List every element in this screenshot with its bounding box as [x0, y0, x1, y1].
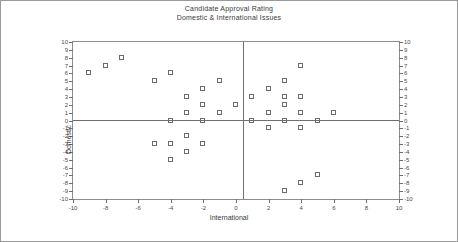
data-point: [298, 110, 303, 115]
y-tick-label-right: 6: [404, 70, 426, 76]
x-tick-label: 4: [290, 205, 312, 211]
y-tick-right: [399, 175, 403, 176]
data-point: [168, 157, 173, 162]
y-tick-label-right: -3: [404, 141, 426, 147]
chart-screenshot: Candidate Approval Rating Domestic & Int…: [0, 0, 458, 242]
y-tick-right: [399, 81, 403, 82]
chart-subtitle: Domestic & International Issues: [0, 13, 458, 22]
y-tick-label-left: 5: [46, 78, 68, 84]
data-point: [152, 141, 157, 146]
x-tick-label: 2: [258, 205, 280, 211]
y-tick-label-right: -5: [404, 157, 426, 163]
data-point: [184, 149, 189, 154]
y-tick-label-right: 0: [404, 118, 426, 124]
data-point: [249, 94, 254, 99]
data-point: [282, 118, 287, 123]
y-tick-right: [399, 113, 403, 114]
y-tick-label-right: -9: [404, 188, 426, 194]
y-tick-right: [399, 160, 403, 161]
x-tick-label: 6: [323, 205, 345, 211]
data-point: [331, 110, 336, 115]
y-tick-right: [399, 144, 403, 145]
data-point: [282, 94, 287, 99]
page-border-top: [0, 0, 458, 1]
y-tick-label-right: -8: [404, 180, 426, 186]
y-tick-label-right: 5: [404, 78, 426, 84]
y-tick-left: [69, 66, 73, 67]
y-tick-label-left: -7: [46, 172, 68, 178]
y-tick-label-right: -2: [404, 133, 426, 139]
y-tick-label-left: 9: [46, 47, 68, 53]
y-tick-left: [69, 42, 73, 43]
y-tick-label-right: 9: [404, 47, 426, 53]
page-border-left: [0, 0, 1, 242]
y-tick-left: [69, 89, 73, 90]
y-tick-label-right: 3: [404, 94, 426, 100]
y-tick-label-left: -5: [46, 157, 68, 163]
x-tick: [236, 199, 237, 203]
data-point: [282, 188, 287, 193]
data-point: [282, 78, 287, 83]
y-tick-left: [69, 113, 73, 114]
y-tick-label-right: 4: [404, 86, 426, 92]
data-point: [168, 118, 173, 123]
y-tick-label-right: 8: [404, 55, 426, 61]
y-tick-label-left: -6: [46, 165, 68, 171]
y-tick-right: [399, 191, 403, 192]
y-tick-right: [399, 121, 403, 122]
y-zero-axis-line: [243, 42, 244, 199]
x-tick: [138, 199, 139, 203]
data-point: [184, 133, 189, 138]
data-point: [168, 70, 173, 75]
data-point: [233, 102, 238, 107]
y-tick-left: [69, 191, 73, 192]
y-tick-right: [399, 128, 403, 129]
data-point: [217, 110, 222, 115]
y-tick-label-left: -9: [46, 188, 68, 194]
x-tick-label: -4: [160, 205, 182, 211]
y-tick-label-right: 2: [404, 102, 426, 108]
y-tick-left: [69, 183, 73, 184]
y-tick-right: [399, 66, 403, 67]
y-tick-left: [69, 105, 73, 106]
y-tick-right: [399, 89, 403, 90]
x-tick-label: 10: [388, 205, 410, 211]
y-tick-label-right: 7: [404, 63, 426, 69]
data-point: [282, 102, 287, 107]
y-tick-left: [69, 73, 73, 74]
y-tick-left: [69, 175, 73, 176]
x-tick: [334, 199, 335, 203]
y-tick-right: [399, 152, 403, 153]
data-point: [200, 118, 205, 123]
y-tick-label-right: -4: [404, 149, 426, 155]
x-tick-label: -10: [62, 205, 84, 211]
data-point: [217, 78, 222, 83]
y-tick-label-right: 10: [404, 39, 426, 45]
x-tick: [366, 199, 367, 203]
y-tick-label-right: -7: [404, 172, 426, 178]
data-point: [200, 141, 205, 146]
y-tick-label-right: -10: [404, 196, 426, 202]
y-tick-left: [69, 81, 73, 82]
y-tick-label-left: 4: [46, 86, 68, 92]
x-tick: [301, 199, 302, 203]
y-tick-right: [399, 50, 403, 51]
data-point: [184, 94, 189, 99]
y-tick-label-left: -10: [46, 196, 68, 202]
y-tick-label-left: -8: [46, 180, 68, 186]
y-tick-label-left: 8: [46, 55, 68, 61]
data-point: [103, 63, 108, 68]
x-zero-axis-line: [73, 120, 399, 121]
y-tick-label-right: 1: [404, 110, 426, 116]
x-tick-label: -6: [127, 205, 149, 211]
x-tick: [73, 199, 74, 203]
y-tick-right: [399, 168, 403, 169]
data-point: [315, 172, 320, 177]
y-tick-label-left: 10: [46, 39, 68, 45]
x-tick: [399, 199, 400, 203]
y-tick-left: [69, 160, 73, 161]
data-point: [200, 102, 205, 107]
y-tick-left: [69, 97, 73, 98]
data-point: [249, 118, 254, 123]
x-tick-label: -8: [95, 205, 117, 211]
